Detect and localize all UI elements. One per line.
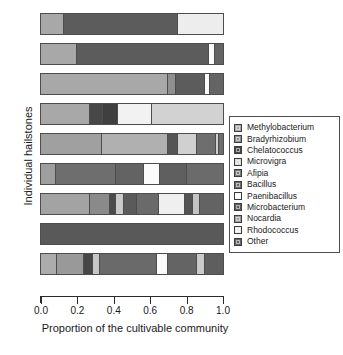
x-axis-tick xyxy=(41,297,42,304)
legend-item-label: Chelatococcus xyxy=(247,146,303,155)
legend-item: Microvigra xyxy=(234,156,336,167)
bar-row xyxy=(40,223,224,245)
bar-segment xyxy=(41,254,57,274)
bar-row xyxy=(40,133,224,155)
legend-item: Microbacterium xyxy=(234,202,336,213)
legend-swatch-icon xyxy=(234,215,242,223)
x-axis-tick xyxy=(150,297,151,304)
legend-item-label: Paenibacillus xyxy=(247,192,297,201)
legend-swatch-icon xyxy=(234,192,242,200)
legend-item-label: Bacillus xyxy=(247,180,276,189)
legend-item-label: Nocardia xyxy=(247,214,281,223)
bar-segment xyxy=(41,74,168,94)
bar-segment xyxy=(103,104,118,124)
bar-segment xyxy=(152,104,223,124)
bar-segment xyxy=(102,134,168,154)
bar-row xyxy=(40,193,224,215)
bar-segment xyxy=(41,164,56,184)
legend-item: Methylobacterium xyxy=(234,122,336,133)
legend-item: Rhodococcus xyxy=(234,225,336,236)
legend-item: Nocardia xyxy=(234,213,336,224)
bar-segment xyxy=(178,14,223,34)
bar-segment xyxy=(90,104,103,124)
legend-item: Bacillus xyxy=(234,179,336,190)
legend-item-label: Rhodococcus xyxy=(247,226,299,235)
legend-item-label: Methylobacterium xyxy=(247,123,314,132)
x-axis-tick xyxy=(77,297,78,304)
bar-segment xyxy=(159,194,184,214)
bar-segment xyxy=(116,164,144,184)
bar-row xyxy=(40,13,224,35)
legend-swatch-icon xyxy=(234,226,242,234)
legend-swatch-icon xyxy=(234,135,242,143)
x-axis-label: Proportion of the cultivable community xyxy=(0,322,270,334)
bar-segment xyxy=(176,74,205,94)
legend-item: Chelatococcus xyxy=(234,145,336,156)
stacked-bar-chart: Individual hailstones 0.00.20.40.60.81.0… xyxy=(0,0,343,355)
legend-swatch-icon xyxy=(234,146,242,154)
legend-swatch-icon xyxy=(234,169,242,177)
bar-segment xyxy=(64,14,179,34)
bar-segment xyxy=(41,194,90,214)
bar-segment xyxy=(118,104,152,124)
bar-segment xyxy=(124,194,138,214)
legend-item-label: Microbacterium xyxy=(247,203,305,212)
x-axis-tick-label: 0.6 xyxy=(143,305,157,316)
x-axis-tick-label: 0.2 xyxy=(70,305,84,316)
bar-row xyxy=(40,253,224,275)
bar-row xyxy=(40,43,224,65)
x-axis-tick xyxy=(187,297,188,304)
bar-segment xyxy=(41,104,90,124)
legend-swatch-icon xyxy=(234,203,242,211)
bar-segment xyxy=(41,14,64,34)
bar-segment xyxy=(41,134,102,154)
bar-segment xyxy=(219,134,223,154)
x-axis-tick-label: 1.0 xyxy=(216,305,230,316)
bar-segment xyxy=(210,74,223,94)
bar-segment xyxy=(41,224,223,244)
x-axis-tick-labels: 0.00.20.40.60.81.0 xyxy=(40,305,224,319)
legend-swatch-icon xyxy=(234,238,242,246)
bar-row xyxy=(40,73,224,95)
legend: MethylobacteriumBradyrhizobiumChelatococ… xyxy=(229,116,340,253)
x-axis-tick-label: 0.8 xyxy=(180,305,194,316)
bar-segment xyxy=(197,134,216,154)
x-axis-tick xyxy=(223,297,224,304)
bar-segment xyxy=(157,254,168,274)
bar-segment xyxy=(84,254,93,274)
bar-segment xyxy=(215,44,223,64)
legend-item: Other xyxy=(234,236,336,247)
legend-item: Afipia xyxy=(234,168,336,179)
legend-swatch-icon xyxy=(234,158,242,166)
bar-segment xyxy=(197,254,205,274)
bar-segment xyxy=(160,164,186,184)
legend-item: Bradyrhizobium xyxy=(234,133,336,144)
bar-segment xyxy=(200,194,223,214)
bar-segment xyxy=(193,194,200,214)
legend-swatch-icon xyxy=(234,124,242,132)
x-axis-tick-label: 0.0 xyxy=(34,305,48,316)
bar-segment xyxy=(56,164,115,184)
bar-segment xyxy=(205,254,223,274)
bar-segment xyxy=(116,194,124,214)
bar-segment xyxy=(90,194,110,214)
legend-item-label: Bradyrhizobium xyxy=(247,135,306,144)
bar-segment xyxy=(178,134,196,154)
legend-item-label: Afipia xyxy=(247,169,268,178)
bar-segment xyxy=(168,254,196,274)
bar-row xyxy=(40,103,224,125)
bar-segment xyxy=(144,164,160,184)
bar-segment xyxy=(41,44,77,64)
bar-segment xyxy=(185,194,193,214)
bar-segment xyxy=(137,194,159,214)
bar-segment xyxy=(100,254,157,274)
legend-swatch-icon xyxy=(234,181,242,189)
x-axis-tick xyxy=(114,297,115,304)
plot-area xyxy=(40,12,224,288)
legend-item-label: Microvigra xyxy=(247,157,286,166)
bar-segment xyxy=(187,164,223,184)
bar-segment xyxy=(77,44,209,64)
legend-item-label: Other xyxy=(247,237,268,246)
bar-segment xyxy=(168,74,175,94)
y-axis-label: Individual hailstones xyxy=(22,76,34,236)
